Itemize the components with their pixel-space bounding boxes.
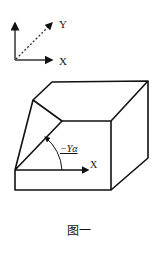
diagonal-dashed-arrow	[16, 23, 52, 59]
right-face	[111, 81, 148, 190]
top-face	[33, 81, 148, 121]
figure-caption: 图一	[67, 224, 91, 238]
diagram: Y X −Yα X 图一	[0, 0, 166, 257]
inner-x-label: X	[90, 159, 98, 170]
cut-facet	[15, 100, 62, 170]
angle-annotation: −Yα X	[15, 137, 98, 170]
angle-label: −Yα	[60, 143, 78, 154]
y-axis-label: Y	[59, 18, 67, 30]
x-axis-label: X	[59, 55, 67, 67]
cut-box	[15, 81, 148, 190]
axes-legend: Y X	[15, 18, 67, 67]
